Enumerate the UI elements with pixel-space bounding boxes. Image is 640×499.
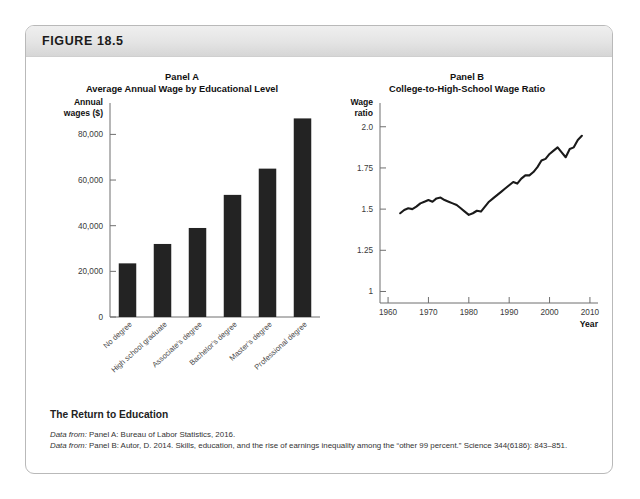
panel-a-y-tick-label: 0	[98, 313, 103, 322]
panel-b-y-tick-label: 1.75	[357, 164, 373, 173]
panel-b-y-tick-label: 2.0	[362, 123, 374, 132]
panel-a-subtitle: Average Annual Wage by Educational Level	[32, 83, 332, 95]
panel-b-x-tick-label: 2010	[581, 308, 600, 317]
source-line-panel-b: Data from: Panel B: Autor, D. 2014. Skil…	[50, 440, 595, 451]
figure-card: FIGURE 18.5 Panel A Average Annual Wage …	[25, 25, 613, 474]
panel-a-title-block: Panel A Average Annual Wage by Education…	[32, 57, 332, 95]
panel-b-plot: 11.251.51.752.0Wageratio1960197019801990…	[322, 95, 612, 405]
panel-b-series-line	[400, 136, 582, 215]
panel-a-y-tick-label: 20,000	[78, 267, 103, 276]
panel-b-title: Panel B	[322, 71, 612, 83]
panel-b-y-tick-label: 1.5	[362, 205, 374, 214]
panel-a-bar-chart: Panel A Average Annual Wage by Education…	[32, 57, 332, 407]
source-line-panel-a: Data from: Panel A: Bureau of Labor Stat…	[50, 429, 595, 440]
figure-header-bar: FIGURE 18.5	[26, 26, 612, 57]
panel-b-y-tick-label: 1.25	[357, 246, 373, 255]
panel-a-bar	[224, 195, 242, 317]
panel-a-y-axis-label: wages ($)	[63, 108, 103, 118]
caption-title: The Return to Education	[50, 409, 595, 420]
source-b-text: Panel B: Autor, D. 2014. Skills, educati…	[87, 441, 567, 450]
panel-a-bar	[119, 263, 137, 317]
panel-a-y-tick-label: 60,000	[78, 176, 103, 185]
panel-b-x-tick-label: 1990	[500, 308, 519, 317]
panel-b-subtitle: College-to-High-School Wage Ratio	[322, 83, 612, 95]
panel-a-y-axis-label: Annual	[74, 97, 103, 107]
panel-b-x-axis-label: Year	[580, 319, 599, 329]
panel-a-title: Panel A	[32, 71, 332, 83]
panel-b-x-tick-label: 2000	[540, 308, 559, 317]
panel-a-bar	[259, 169, 277, 317]
panel-b-title-block: Panel B College-to-High-School Wage Rati…	[322, 57, 612, 95]
figure-body: Panel A Average Annual Wage by Education…	[26, 57, 612, 474]
panel-b-y-axis-label: ratio	[354, 108, 373, 118]
caption-block: The Return to Education Data from: Panel…	[50, 409, 595, 451]
panel-b-x-tick-label: 1980	[460, 308, 479, 317]
source-a-text: Panel A: Bureau of Labor Statistics, 201…	[87, 430, 235, 439]
source-a-prefix: Data from:	[50, 430, 87, 439]
panel-b-x-tick-label: 1970	[419, 308, 438, 317]
panel-b-x-tick-label: 1960	[379, 308, 398, 317]
figure-number-label: FIGURE 18.5	[42, 34, 124, 48]
source-b-prefix: Data from:	[50, 441, 87, 450]
panel-b-y-tick-label: 1	[368, 287, 373, 296]
panel-a-category-label: No degree	[101, 320, 133, 350]
panel-b-y-axis-label: Wage	[350, 97, 373, 107]
panel-a-y-tick-label: 80,000	[78, 130, 103, 139]
panel-a-y-tick-label: 40,000	[78, 222, 103, 231]
panel-b-line-chart: Panel B College-to-High-School Wage Rati…	[322, 57, 612, 407]
panel-a-bar	[189, 228, 207, 317]
panel-a-bar	[294, 118, 312, 317]
panel-a-plot: 020,00040,00060,00080,000Annualwages ($)…	[32, 95, 332, 405]
panel-a-bar	[154, 244, 172, 317]
